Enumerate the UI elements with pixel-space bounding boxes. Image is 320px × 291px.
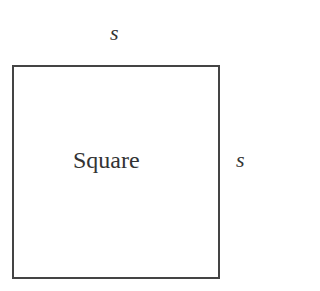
right-side-label: s	[236, 147, 245, 173]
top-side-label: s	[110, 20, 119, 46]
square-label: Square	[73, 147, 140, 174]
